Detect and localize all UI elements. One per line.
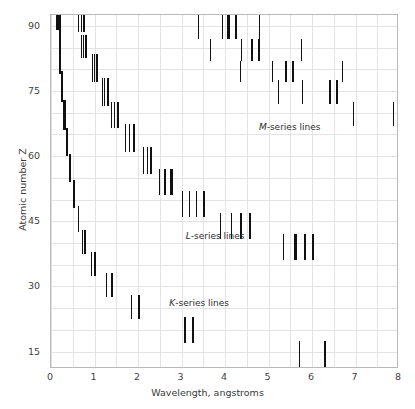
x-axis-title: Wavelength, angstroms bbox=[0, 387, 415, 398]
x-tick-label: 0 bbox=[47, 371, 53, 382]
x-tick-label: 3 bbox=[177, 371, 183, 382]
xray-spectra-figure: Atomic number Z 153045607590 M-series li… bbox=[0, 0, 415, 409]
x-axis-tick-labels: 012345678 bbox=[0, 0, 415, 409]
x-tick-label: 8 bbox=[395, 371, 401, 382]
x-tick-label: 4 bbox=[221, 371, 227, 382]
x-tick-label: 2 bbox=[134, 371, 140, 382]
x-tick-label: 1 bbox=[90, 371, 96, 382]
x-tick-label: 5 bbox=[264, 371, 270, 382]
x-tick-label: 7 bbox=[351, 371, 357, 382]
x-tick-label: 6 bbox=[308, 371, 314, 382]
